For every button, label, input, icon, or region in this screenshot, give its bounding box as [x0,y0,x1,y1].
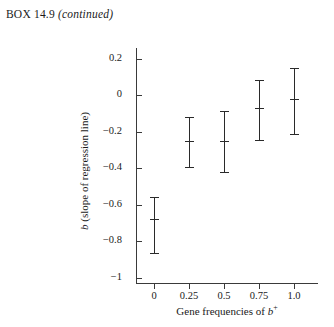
x-axis-title-text: Gene frequencies of [176,305,267,317]
x-tick-label: 0.75 [239,290,279,301]
y-tick-label: 0.2 [0,52,128,63]
y-tick-label: −0.8 [0,234,128,245]
error-bar [254,80,265,140]
y-tick-mark [137,241,142,242]
data-point-marker [185,141,194,142]
y-tick-label: −0.4 [0,161,128,172]
error-bar [149,197,160,254]
x-axis-line [136,283,318,284]
y-tick-label: −1 [0,271,128,282]
data-point-marker [150,219,159,220]
error-bar-cap-lower [185,167,194,168]
error-bar-stem [259,80,260,140]
x-tick-label: 0.5 [204,290,244,301]
error-bar-cap-upper [290,68,299,69]
error-bar-chart: 0.20−0.2−0.4−0.6−0.8−1 00.250.50.751.0 G… [0,0,334,327]
y-tick-mark [137,132,142,133]
error-bar [219,111,230,173]
error-bar-cap-lower [290,134,299,135]
x-tick-label: 0 [134,290,174,301]
error-bar-cap-lower [220,172,229,173]
error-bar-stem [224,111,225,173]
y-tick-mark [137,205,142,206]
error-bar-cap-upper [220,111,229,112]
y-tick-mark [137,278,142,279]
y-tick-mark [137,59,142,60]
error-bar-cap-upper [255,80,264,81]
y-tick-label: −0.2 [0,125,128,136]
error-bar-cap-upper [150,197,159,198]
data-point-marker [220,141,229,142]
y-tick-label: 0 [0,88,128,99]
error-bar-cap-lower [255,140,264,141]
y-axis-line [136,48,137,284]
y-tick-mark [137,95,142,96]
x-tick-label: 1.0 [274,290,314,301]
error-bar-stem [294,68,295,136]
error-bar-stem [154,197,155,254]
error-bar [184,117,195,168]
x-tick-mark [259,284,260,289]
data-point-marker [290,99,299,100]
x-tick-mark [189,284,190,289]
y-axis-title-text: (slope of regression line) [78,112,90,224]
y-axis-title-symbol: b [78,224,90,230]
x-tick-mark [154,284,155,289]
error-bar-cap-upper [185,117,194,118]
error-bar-stem [189,117,190,168]
x-tick-label: 0.25 [169,290,209,301]
data-point-marker [255,108,264,109]
error-bar-cap-lower [150,253,159,254]
x-tick-mark [294,284,295,289]
y-tick-label: −0.6 [0,198,128,209]
y-tick-mark [137,168,142,169]
error-bar [289,68,300,136]
x-tick-mark [224,284,225,289]
x-axis-title: Gene frequencies of b+ [136,305,318,317]
y-axis-title: b (slope of regression line) [78,81,90,261]
x-axis-title-superscript: + [273,303,277,312]
